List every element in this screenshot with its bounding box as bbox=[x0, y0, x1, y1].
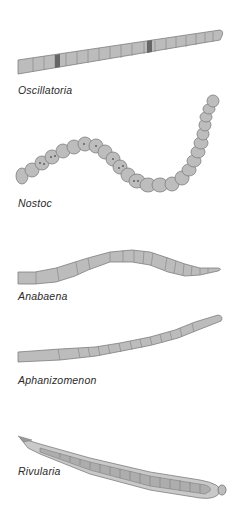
anabaena-filament bbox=[18, 250, 221, 284]
oscillatoria-separation-disc-2 bbox=[147, 40, 152, 53]
cyanobacteria-figure: Oscillatoria Nostoc Anabaena Aphanizomen… bbox=[0, 0, 241, 508]
label-oscillatoria: Oscillatoria bbox=[18, 84, 72, 96]
label-anabaena: Anabaena bbox=[18, 290, 67, 302]
label-nostoc: Nostoc bbox=[18, 197, 52, 209]
nostoc-filament bbox=[16, 95, 219, 192]
rivularia-heterocyst bbox=[218, 485, 226, 495]
illustration-canvas bbox=[0, 0, 241, 508]
oscillatoria-filament bbox=[18, 30, 223, 74]
label-aphanizomenon: Aphanizomenon bbox=[18, 374, 97, 386]
aphanizomenon-filament bbox=[18, 315, 222, 362]
oscillatoria-separation-disc-1 bbox=[55, 54, 60, 68]
label-rivularia: Rivularia bbox=[18, 465, 61, 477]
